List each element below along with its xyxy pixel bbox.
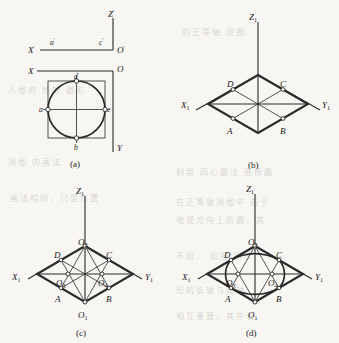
point-marker-O3 xyxy=(66,272,70,276)
label-point-a: a xyxy=(39,105,43,114)
point-marker-O3 xyxy=(236,272,240,276)
caption-panel-b: (b) xyxy=(248,160,259,170)
technical-drawing-canvas: X' Z' O' X O Y a' c' a b c d (a) xyxy=(0,0,339,343)
label-point-D: D xyxy=(223,250,231,260)
label-o-prime: O' xyxy=(117,45,125,55)
label-point-O3: O3 xyxy=(56,278,66,289)
label-y1: Y1 xyxy=(322,100,330,111)
label-z-prime: Z' xyxy=(108,9,114,19)
point-marker-O1 xyxy=(253,300,257,304)
point-marker-O1 xyxy=(83,300,87,304)
label-point-D: D xyxy=(53,250,61,260)
point-marker-O4 xyxy=(270,272,274,276)
panel-c: Z1 X1 Y1 A B C D O1 O2 O3 O4 (c) xyxy=(11,186,153,338)
point-marker-O4 xyxy=(100,272,104,276)
label-point-A: A xyxy=(226,126,233,136)
label-o: O xyxy=(117,64,124,74)
label-x-prime: X' xyxy=(27,45,35,55)
label-point-C: C xyxy=(106,250,113,260)
label-point-O1: O1 xyxy=(78,310,88,321)
label-y1: Y1 xyxy=(315,272,323,283)
point-marker-B xyxy=(281,117,285,121)
label-point-B: B xyxy=(276,294,282,304)
point-marker-B xyxy=(277,286,281,290)
panel-b: Z1 X1 Y1 A B C D (b) xyxy=(180,12,330,170)
figure-page: 人图的 线的 圆形 的正等轴 测图 利用 四心圆法 画椅圆 在正等轴测图中 由于… xyxy=(0,0,339,343)
label-point-O2: O2 xyxy=(248,237,258,248)
point-marker-b xyxy=(74,136,78,140)
label-point-O2: O2 xyxy=(78,237,88,248)
label-x1: X1 xyxy=(181,272,191,283)
point-marker-a xyxy=(46,107,50,111)
label-y1: Y1 xyxy=(145,272,153,283)
caption-panel-d: (d) xyxy=(246,328,257,338)
point-marker-B xyxy=(107,286,111,290)
label-point-O1: O1 xyxy=(248,310,258,321)
panel-d: Z1 X1 Y1 A B C D O1 O2 O3 O4 (d) xyxy=(181,184,323,338)
label-point-D: D xyxy=(226,79,234,89)
label-point-B: B xyxy=(280,126,286,136)
label-point-O3: O3 xyxy=(226,278,236,289)
label-point-A: A xyxy=(54,294,61,304)
panel-a: X' Z' O' X O Y a' c' a b c d (a) xyxy=(27,9,125,169)
label-point-O4: O4 xyxy=(268,278,278,289)
label-point-d: d xyxy=(74,72,78,81)
label-x: X xyxy=(27,66,34,76)
caption-panel-c: (c) xyxy=(76,328,86,338)
label-z1: Z1 xyxy=(246,184,254,195)
label-a-prime: a' xyxy=(50,37,55,47)
label-point-C: C xyxy=(276,250,283,260)
label-x1: X1 xyxy=(180,100,190,111)
label-point-C: C xyxy=(280,79,287,89)
label-c-prime: c' xyxy=(99,37,103,47)
label-point-b: b xyxy=(74,143,78,152)
label-point-c: c xyxy=(107,105,111,114)
point-marker-A xyxy=(231,117,235,121)
label-point-A: A xyxy=(224,294,231,304)
label-z1: Z1 xyxy=(76,186,84,197)
label-x1: X1 xyxy=(11,272,21,283)
label-y: Y xyxy=(117,143,123,153)
caption-panel-a: (a) xyxy=(70,159,80,169)
label-point-B: B xyxy=(106,294,112,304)
label-z1: Z1 xyxy=(249,12,257,23)
label-point-O4: O4 xyxy=(98,278,108,289)
